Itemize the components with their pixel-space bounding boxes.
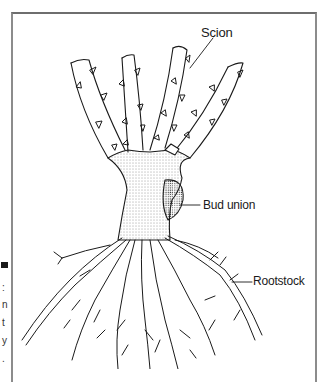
rootstock-roots: [22, 236, 262, 369]
scion-canes: [71, 38, 243, 158]
trunk-bud-union: [108, 144, 200, 240]
bud-union-label: Bud union: [203, 198, 255, 212]
rootstock-label: Rootstock: [253, 274, 305, 288]
scion-label: Scion: [201, 25, 233, 40]
